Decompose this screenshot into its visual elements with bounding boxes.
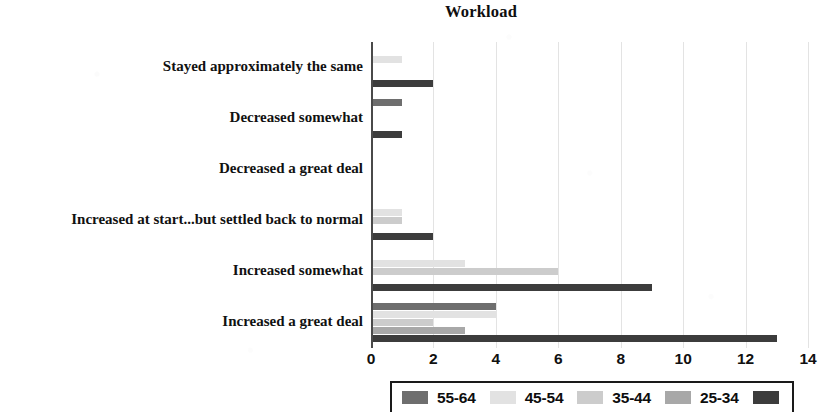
bar (371, 327, 465, 334)
category-label: Decreased a great deal (219, 161, 363, 176)
plot-area: Stayed approximately the sameDecreased s… (371, 42, 808, 348)
bar (371, 209, 402, 216)
gridline (808, 42, 809, 348)
category-group: Decreased somewhat (371, 93, 808, 144)
bar (371, 284, 652, 291)
bar (371, 233, 433, 240)
legend-entry[interactable]: 35-44 (577, 389, 651, 407)
category-label: Increased somewhat (233, 263, 363, 278)
bar (371, 131, 402, 138)
legend-entry[interactable] (753, 391, 788, 404)
bar (371, 99, 402, 106)
category-group: Stayed approximately the same (371, 42, 808, 93)
category-label: Increased at start...but settled back to… (71, 212, 363, 227)
x-axis-ticks: 02468101214 (371, 350, 808, 372)
legend-entry[interactable]: 55-64 (402, 389, 476, 407)
category-label: Stayed approximately the same (163, 59, 363, 74)
category-label: Decreased somewhat (230, 110, 363, 125)
category-group: Increased a great deal (371, 297, 808, 348)
x-axis-tick-label: 2 (429, 350, 438, 368)
x-axis-tick-label: 0 (367, 350, 376, 368)
x-axis-tick-label: 4 (492, 350, 501, 368)
y-axis-line (371, 42, 373, 348)
legend-label: 55-64 (437, 389, 476, 407)
bar (371, 217, 402, 224)
bar (371, 268, 558, 275)
legend-swatch (577, 391, 603, 404)
bar (371, 335, 777, 342)
x-axis-tick-label: 12 (737, 350, 754, 368)
chart-title: Workload (77, 2, 822, 22)
bar (371, 319, 433, 326)
legend-label: 25-34 (700, 389, 739, 407)
bar (371, 260, 465, 267)
legend-swatch (490, 391, 516, 404)
bar (371, 311, 496, 318)
legend-swatch (665, 391, 691, 404)
legend-label: 35-44 (612, 389, 651, 407)
legend-entry[interactable]: 45-54 (490, 389, 564, 407)
legend-swatch (402, 391, 428, 404)
legend-entry[interactable]: 25-34 (665, 389, 739, 407)
category-group: Increased somewhat (371, 246, 808, 297)
bar (371, 56, 402, 63)
bar (371, 303, 496, 310)
x-axis-tick-label: 10 (675, 350, 692, 368)
category-label: Increased a great deal (222, 314, 363, 329)
x-axis-tick-label: 14 (799, 350, 816, 368)
category-group: Increased at start...but settled back to… (371, 195, 808, 246)
legend-swatch (753, 391, 779, 404)
category-group: Decreased a great deal (371, 144, 808, 195)
legend-label: 45-54 (525, 389, 564, 407)
bar (371, 80, 433, 87)
x-axis-tick-label: 6 (554, 350, 563, 368)
chart-legend: 55-6445-5435-4425-34 (390, 381, 794, 412)
x-axis-tick-label: 8 (616, 350, 625, 368)
